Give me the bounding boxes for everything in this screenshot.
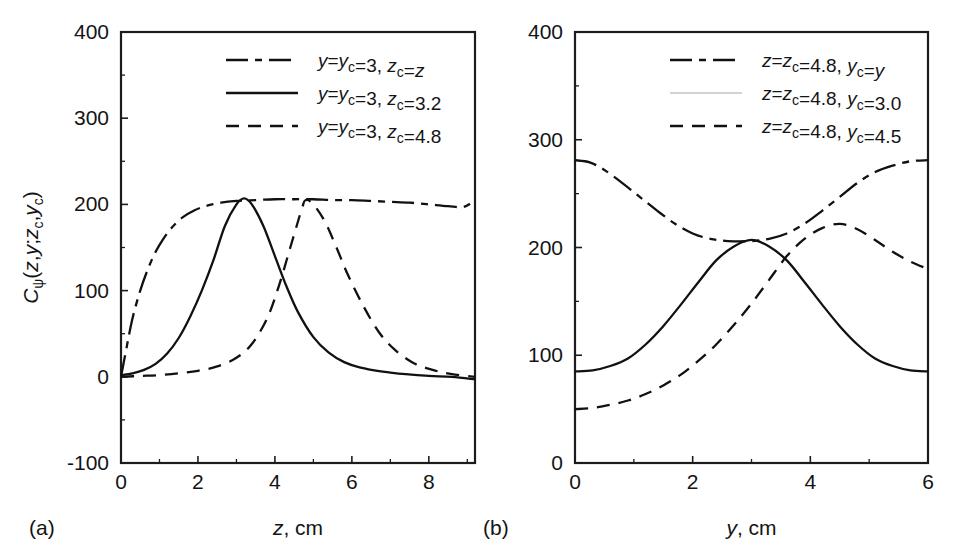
- y-tick-label: 200: [74, 192, 109, 215]
- legend-label: z=zc=4.8, yc=y: [761, 50, 886, 81]
- panel-tag: (b): [483, 516, 509, 539]
- x-tick-label: 6: [346, 470, 358, 493]
- data-curve: [575, 160, 928, 241]
- legend-label: z=zc=4.8, yc=3.0: [761, 83, 901, 114]
- x-tick-label: 8: [423, 470, 435, 493]
- x-tick-label: 0: [569, 470, 581, 493]
- figure-container: 024684003002001000-100z, cm(a)Cψ(z,y;zc,…: [0, 0, 963, 550]
- y-tick-label: 100: [74, 279, 109, 302]
- x-tick-label: 0: [115, 470, 127, 493]
- panel-tag: (a): [29, 516, 55, 539]
- x-tick-label: 2: [192, 470, 204, 493]
- y-tick-label: 400: [74, 20, 109, 43]
- y-tick-label: 300: [74, 106, 109, 129]
- y-tick-label: 100: [528, 343, 563, 366]
- chart-panel-b: 02464003002001000y, cm(b)z=zc=4.8, yc=yz…: [482, 0, 963, 550]
- x-tick-label: 4: [269, 470, 281, 493]
- y-tick-label: 300: [528, 128, 563, 151]
- y-tick-label: 200: [528, 236, 563, 259]
- x-tick-label: 6: [922, 470, 934, 493]
- y-tick-label: 400: [528, 20, 563, 43]
- y-tick-label: 0: [551, 451, 563, 474]
- x-tick-label: 4: [804, 470, 816, 493]
- data-curve: [575, 240, 928, 371]
- y-axis-title: Cψ(z,y;zc,yc): [19, 191, 46, 304]
- panel-a-plot: 024684003002001000-100z, cm(a)Cψ(z,y;zc,…: [0, 0, 481, 550]
- legend-label: y=yc=3, zc=3.2: [316, 83, 441, 114]
- y-tick-label: -100: [67, 451, 109, 474]
- legend-label: y=yc=3, zc=4.8: [316, 116, 441, 147]
- panel-b-plot: 02464003002001000y, cm(b)z=zc=4.8, yc=yz…: [482, 0, 963, 550]
- y-tick-label: 0: [97, 365, 109, 388]
- data-curve: [575, 224, 928, 409]
- legend-label: y=yc=3, zc=z: [316, 50, 425, 81]
- x-axis-title: z, cm: [272, 516, 323, 539]
- chart-panel-a: 024684003002001000-100z, cm(a)Cψ(z,y;zc,…: [0, 0, 481, 550]
- x-tick-label: 2: [687, 470, 699, 493]
- legend-label: z=zc=4.8, yc=4.5: [761, 116, 901, 147]
- x-axis-title: y, cm: [724, 516, 776, 539]
- data-curve: [121, 199, 475, 377]
